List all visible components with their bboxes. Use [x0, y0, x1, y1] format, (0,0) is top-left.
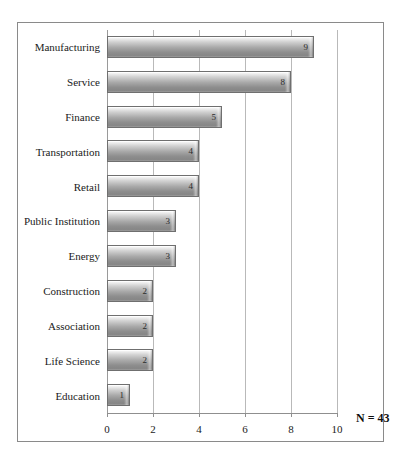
bar-value-label: 3 — [166, 217, 171, 226]
bar-row: 2 — [107, 274, 337, 309]
x-tick-mark — [153, 413, 154, 417]
category-label: Education — [55, 378, 100, 413]
x-tick-mark — [107, 413, 108, 417]
bar-row: 2 — [107, 309, 337, 344]
category-label: Association — [48, 309, 100, 344]
category-label: Finance — [65, 100, 100, 135]
bar-value-label: 4 — [189, 182, 194, 191]
x-tick-mark — [337, 413, 338, 417]
x-tick-mark — [291, 413, 292, 417]
category-label: Retail — [74, 169, 100, 204]
bar-value-label: 5 — [212, 112, 217, 121]
bar-value-label: 2 — [143, 356, 148, 365]
bar-row: 2 — [107, 343, 337, 378]
category-label: Service — [67, 65, 100, 100]
bar-row: 3 — [107, 239, 337, 274]
sample-size-annotation: N = 43 — [356, 411, 390, 426]
x-tick-mark — [199, 413, 200, 417]
bar[interactable]: 4 — [107, 140, 199, 162]
x-tick-label: 4 — [196, 423, 202, 435]
x-tick-label: 6 — [242, 423, 248, 435]
x-tick-label: 8 — [288, 423, 294, 435]
bar[interactable]: 1 — [107, 384, 130, 406]
bar-value-label: 2 — [143, 286, 148, 295]
bar-row: 8 — [107, 65, 337, 100]
bar-value-label: 4 — [189, 147, 194, 156]
bar-value-label: 9 — [304, 43, 309, 52]
bar[interactable]: 3 — [107, 210, 176, 232]
category-label: Transportation — [36, 134, 100, 169]
bar-row: 4 — [107, 134, 337, 169]
bar[interactable]: 3 — [107, 245, 176, 267]
bar[interactable]: 8 — [107, 71, 291, 93]
x-axis-line — [107, 413, 337, 414]
chart-frame: ManufacturingServiceFinanceTransportatio… — [17, 22, 384, 442]
bar-series: 98544332221 — [107, 30, 337, 413]
bar-value-label: 3 — [166, 251, 171, 260]
x-tick-label: 2 — [150, 423, 156, 435]
bar-value-label: 8 — [281, 77, 286, 86]
bar[interactable]: 4 — [107, 175, 199, 197]
category-label: Public Institution — [24, 204, 100, 239]
bar[interactable]: 5 — [107, 106, 222, 128]
bar-value-label: 1 — [120, 391, 125, 400]
category-label: Construction — [43, 274, 100, 309]
bar-row: 9 — [107, 30, 337, 65]
bar[interactable]: 9 — [107, 36, 314, 58]
bar-row: 4 — [107, 169, 337, 204]
bar-row: 5 — [107, 100, 337, 135]
category-label: Energy — [68, 239, 100, 274]
gridline-10 — [337, 30, 338, 413]
bar[interactable]: 2 — [107, 315, 153, 337]
bar[interactable]: 2 — [107, 280, 153, 302]
category-label: Life Science — [45, 343, 100, 378]
bar-row: 3 — [107, 204, 337, 239]
category-axis-labels: ManufacturingServiceFinanceTransportatio… — [18, 30, 104, 413]
bar-row: 1 — [107, 378, 337, 413]
bar-value-label: 2 — [143, 321, 148, 330]
bar[interactable]: 2 — [107, 349, 153, 371]
x-tick-mark — [245, 413, 246, 417]
x-tick-label: 0 — [104, 423, 110, 435]
x-tick-label: 10 — [332, 423, 343, 435]
plot-area: 98544332221 0246810 — [107, 30, 337, 413]
category-label: Manufacturing — [35, 30, 100, 65]
